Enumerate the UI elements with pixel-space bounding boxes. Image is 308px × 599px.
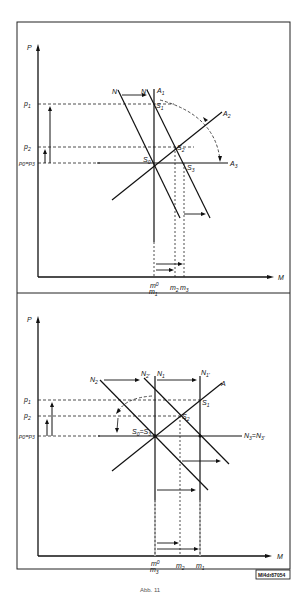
shift-arrow-icon — [201, 212, 206, 216]
label-N3: N3=N3' — [244, 432, 266, 441]
label-A2: A2 — [222, 110, 231, 119]
point-S0-dot — [153, 434, 157, 438]
bottom-x-axis-arrow-icon — [265, 554, 272, 558]
label-A3: A3 — [229, 160, 238, 169]
rotation-arc — [160, 100, 220, 160]
tick-m1: m1 — [149, 288, 158, 297]
point-S0: S0 — [143, 156, 151, 165]
top-y-axis-label: P — [27, 44, 32, 51]
label-A: A — [220, 380, 226, 387]
top-y-axis-arrow-icon — [36, 44, 40, 51]
top-panel: P M p1 p2 p0=p3 N N' A1 A2 A3 S0 S1 S2 S… — [18, 44, 284, 297]
tick-p0-p3: p0=p3 — [18, 433, 35, 440]
tick-p1: p1 — [23, 100, 31, 109]
image-tag: MI4dr87054 — [258, 572, 285, 578]
label-N1: N1 — [157, 370, 165, 379]
curve-N — [118, 90, 180, 218]
price-rise-small-arrow-icon — [45, 419, 49, 424]
label-N-prime: N' — [141, 88, 148, 95]
label-N2-prime: N2' — [141, 370, 151, 379]
shift-arrow-icon — [216, 459, 221, 463]
top-x-axis-label: M — [278, 274, 284, 281]
point-S2: S2 — [177, 144, 185, 153]
bottom-x-axis-label: M — [277, 553, 283, 560]
diagram-canvas: P M p1 p2 p0=p3 N N' A1 A2 A3 S0 S1 S2 S… — [0, 0, 308, 599]
shift-arrow-icon — [192, 378, 197, 382]
price-rise-small-arrow-icon — [43, 149, 47, 154]
shift-arrow-icon — [191, 488, 196, 492]
rotation-arrow-icon — [218, 156, 222, 162]
bottom-panel: P M p1 p2 p0=p3 N2 N2' N1 N1' A N3=N3' S… — [18, 316, 290, 579]
price-rise-arrow-icon — [48, 106, 52, 111]
point-S3: S3 — [187, 164, 195, 173]
figure-caption: Abb. 11 — [140, 587, 161, 593]
rotation-arrow-icon — [203, 117, 208, 122]
price-rise-arrow-icon — [50, 402, 54, 407]
point-S1: S1 — [202, 399, 210, 408]
point-S2: S2 — [182, 413, 190, 422]
shift-arrow-icon — [135, 378, 140, 382]
bottom-y-axis-label: P — [27, 316, 32, 323]
tick-m3: m3 — [150, 566, 159, 575]
label-A1: A1 — [156, 87, 165, 96]
curve-A — [112, 383, 222, 471]
label-N: N — [112, 88, 118, 95]
tick-p2: p2 — [23, 412, 31, 421]
tick-m1: m1 — [196, 562, 205, 571]
label-N2: N2 — [90, 376, 98, 385]
curve-N-prime — [147, 90, 210, 218]
tick-p2: p2 — [23, 143, 31, 152]
tick-m3: m3 — [180, 284, 189, 293]
bottom-y-axis-arrow-icon — [36, 316, 40, 323]
tick-m2: m2 — [170, 284, 179, 293]
rotation-arrow-icon — [115, 428, 119, 433]
tick-p1: p1 — [23, 396, 31, 405]
tick-p0-p3: p0=p3 — [18, 160, 35, 167]
top-x-axis-arrow-icon — [267, 275, 274, 279]
tick-m2: m2 — [176, 562, 185, 571]
label-N1-prime: N1' — [201, 369, 211, 378]
